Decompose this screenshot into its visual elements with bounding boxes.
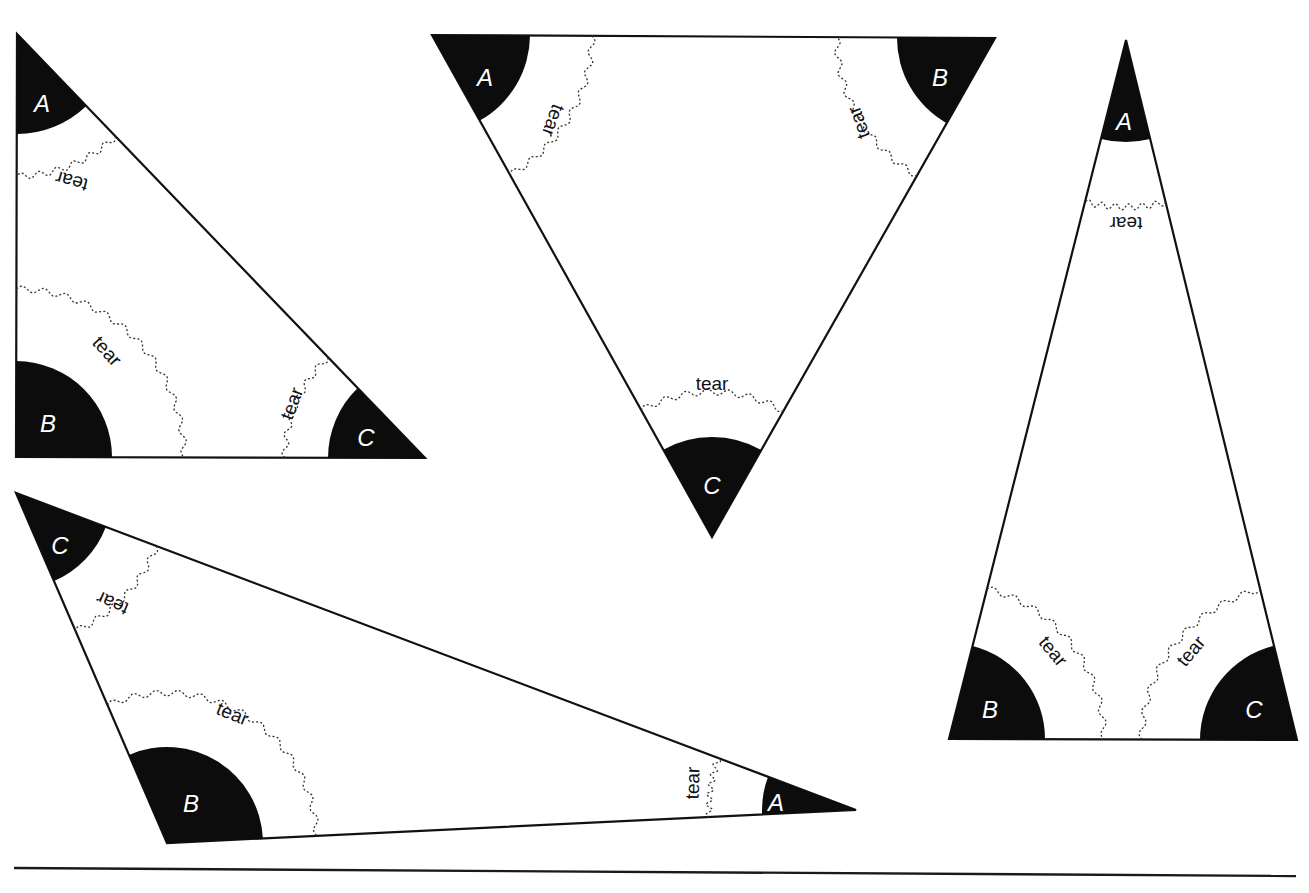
- triangle-outline: [16, 493, 856, 843]
- vertex-label-c: C: [703, 472, 721, 499]
- vertex-label-a: A: [766, 789, 784, 816]
- triangle-tall-isosceles: tearteartearABC: [949, 40, 1297, 740]
- bottom-rule-divider: [14, 868, 1296, 876]
- triangle-outline: [949, 40, 1297, 740]
- vertex-label-c: C: [357, 424, 375, 451]
- triangle-obtuse-triangle: tearteartearABC: [16, 493, 856, 843]
- triangles-layer: tearteartearABCtearteartearABCteartearte…: [16, 34, 1297, 843]
- tear-label: tear: [696, 373, 729, 394]
- vertex-label-b: B: [982, 696, 998, 723]
- vertex-label-a: A: [32, 90, 50, 117]
- vertex-label-b: B: [932, 64, 948, 91]
- tear-label: tear: [1109, 213, 1142, 234]
- vertex-label-c: C: [51, 532, 69, 559]
- vertex-label-b: B: [40, 410, 56, 437]
- triangle-equilateral-inverted: tearteartearABC: [432, 35, 995, 537]
- vertex-label-c: C: [1245, 696, 1263, 723]
- vertex-label-a: A: [475, 64, 493, 91]
- diagram-canvas: tearteartearABCtearteartearABCteartearte…: [0, 0, 1309, 893]
- triangle-right-triangle: tearteartearABC: [16, 34, 425, 458]
- tear-label: tear: [681, 766, 703, 800]
- vertex-label-a: A: [1114, 108, 1132, 135]
- vertex-label-b: B: [183, 790, 199, 817]
